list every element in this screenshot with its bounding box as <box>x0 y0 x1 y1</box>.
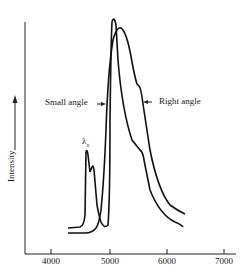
small-angle-label: Small angle <box>45 97 88 107</box>
x-tick-7000: 7000 <box>215 256 233 266</box>
right-angle-label: Right angle <box>159 96 201 106</box>
x-tick-4000: 4000 <box>42 256 60 266</box>
x-tick-5000: 5000 <box>101 256 119 266</box>
arrow-up-icon <box>13 95 18 103</box>
lambda-x-label: λx <box>82 136 89 148</box>
spectrum-plot <box>0 0 242 269</box>
x-tick-6000: 6000 <box>158 256 176 266</box>
series-small-angle <box>68 19 183 228</box>
y-axis-label: Intensity <box>6 151 16 183</box>
